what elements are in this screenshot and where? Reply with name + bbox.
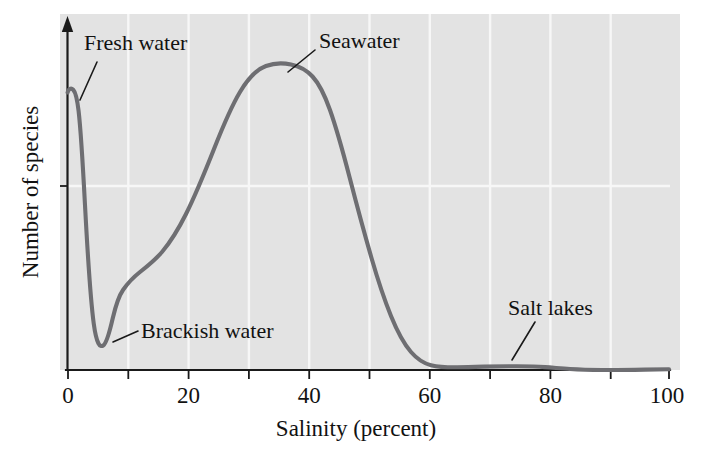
- salinity-species-chart: Fresh water Brackish water Seawater Salt…: [0, 0, 709, 453]
- brackish-water-label: Brackish water: [141, 318, 274, 343]
- x-tick-labels: 0 20 40 60 80 100: [62, 383, 684, 408]
- seawater-label: Seawater: [319, 28, 400, 53]
- x-axis-title: Salinity (percent): [276, 416, 436, 441]
- chart-figure: Fresh water Brackish water Seawater Salt…: [0, 0, 709, 453]
- salt-lakes-label: Salt lakes: [508, 295, 593, 320]
- x-tick-label-100: 100: [650, 383, 685, 408]
- x-tick-label-80: 80: [539, 383, 562, 408]
- fresh-water-label: Fresh water: [84, 30, 188, 55]
- x-tick-label-60: 60: [418, 383, 441, 408]
- x-tick-label-0: 0: [62, 383, 74, 408]
- x-tick-label-40: 40: [298, 383, 321, 408]
- x-tick-label-20: 20: [177, 383, 200, 408]
- y-axis-title: Number of species: [18, 106, 43, 278]
